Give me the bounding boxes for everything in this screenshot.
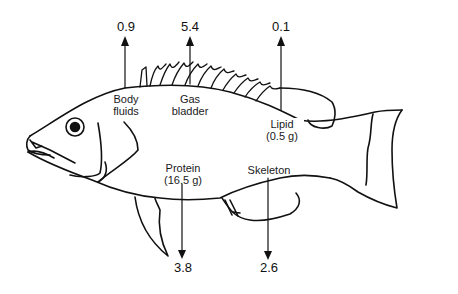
gas-bladder-label-line2: bladder: [168, 105, 212, 117]
gas-bladder-label: Gas bladder: [168, 93, 212, 117]
arrowhead-up-icon: [121, 36, 129, 46]
lipid-value: 0.1: [268, 20, 294, 34]
fish-dorsal-outline: [30, 85, 402, 136]
protein-value: 3.8: [170, 261, 196, 275]
gill-line: [98, 122, 138, 182]
lipid-label-line2: (0.5 g): [260, 130, 304, 142]
protein-label-line2: (16.5 g): [160, 174, 206, 186]
skeleton-label-line1: Skeleton: [244, 164, 294, 176]
protein-label: Protein (16.5 g): [160, 162, 206, 186]
mouth: [27, 136, 75, 163]
arrowhead-down-icon: [178, 250, 186, 259]
pectoral-fin: [225, 200, 240, 216]
tail-base-line: [366, 114, 373, 185]
body-fluids-label-line1: Body: [104, 93, 148, 105]
arrowhead-up-icon: [186, 36, 194, 46]
pelvic-fin: [135, 197, 168, 256]
arrowhead-down-icon: [264, 251, 272, 260]
skeleton-value: 2.6: [256, 261, 282, 275]
fish-drawing: [0, 0, 458, 294]
body-fluids-value: 0.9: [113, 20, 139, 34]
arrowhead-up-icon: [277, 36, 285, 46]
caudal-fin: [330, 110, 402, 208]
protein-label-line1: Protein: [160, 162, 206, 174]
cheek-line: [98, 162, 106, 182]
body-fluids-label: Body fluids: [104, 93, 148, 117]
body-fluids-label-line2: fluids: [104, 105, 148, 117]
skeleton-label: Skeleton: [244, 164, 294, 176]
gas-bladder-label-line1: Gas: [168, 93, 212, 105]
gas-bladder-value: 5.4: [177, 20, 203, 34]
eye-pupil: [71, 123, 80, 132]
lipid-label: Lipid (0.5 g): [260, 118, 304, 142]
lipid-label-line1: Lipid: [260, 118, 304, 130]
